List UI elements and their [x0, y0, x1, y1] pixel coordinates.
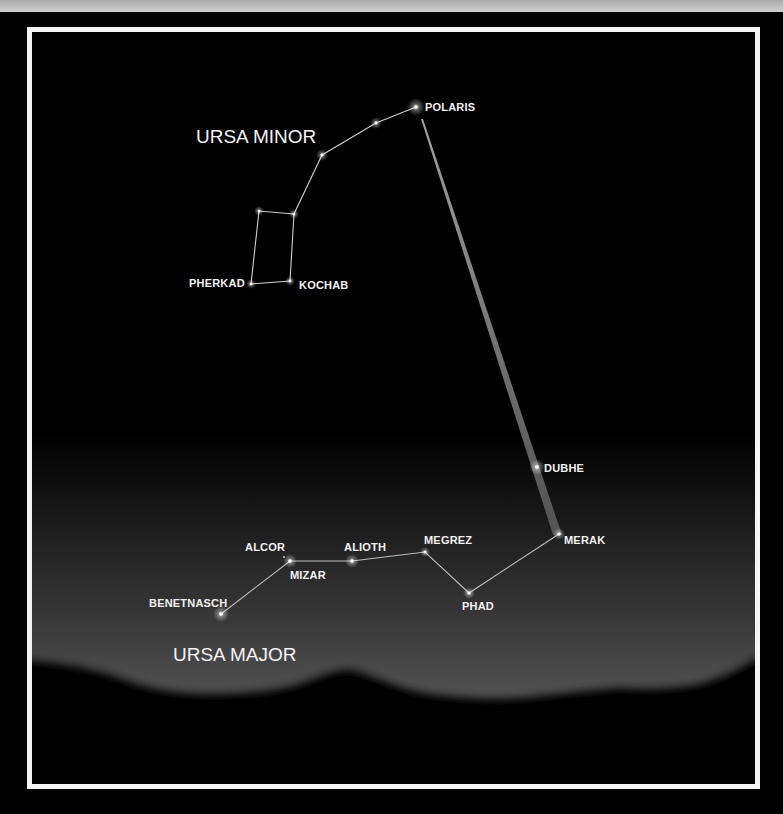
illustration-frame: POLARIS KOCHAB PHERKAD DUBHE MERAK PHAD …	[27, 27, 760, 789]
label-megrez: MEGREZ	[424, 534, 472, 546]
star-mizar	[283, 554, 297, 568]
star-alcor	[283, 556, 285, 558]
ursa-major-title: URSA MAJOR	[173, 644, 297, 665]
star-phad	[463, 587, 475, 599]
star-zeta-umi	[289, 209, 299, 219]
label-benetnasch: BENETNASCH	[149, 597, 227, 609]
label-alcor: ALCOR	[245, 541, 285, 553]
star-kochab	[285, 276, 295, 286]
top-edge-bar	[0, 0, 783, 12]
star-alioth	[345, 554, 359, 568]
label-pherkad: PHERKAD	[189, 277, 245, 289]
star-yildun	[370, 117, 382, 129]
label-kochab: KOCHAB	[299, 279, 348, 291]
star-polaris	[407, 98, 425, 116]
star-dubhe	[529, 459, 545, 475]
constellation-diagram: POLARIS KOCHAB PHERKAD DUBHE MERAK PHAD …	[32, 32, 755, 784]
label-dubhe: DUBHE	[544, 462, 584, 474]
ground	[32, 662, 755, 784]
label-alioth: ALIOTH	[344, 541, 386, 553]
label-merak: MERAK	[564, 534, 605, 546]
star-epsilon-umi	[316, 149, 328, 161]
night-sky-panel: POLARIS KOCHAB PHERKAD DUBHE MERAK PHAD …	[32, 32, 755, 784]
label-phad: PHAD	[462, 600, 494, 612]
star-labels: POLARIS KOCHAB PHERKAD DUBHE MERAK PHAD …	[149, 101, 605, 612]
label-polaris: POLARIS	[425, 101, 475, 113]
label-mizar: MIZAR	[290, 569, 326, 581]
ursa-minor-title: URSA MINOR	[196, 126, 316, 147]
star-pherkad	[246, 279, 256, 289]
star-megrez	[420, 547, 430, 557]
star-eta-umi	[254, 206, 264, 216]
